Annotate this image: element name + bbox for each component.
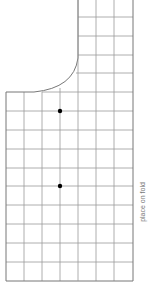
notch-dot-1 [58, 109, 62, 113]
grid-lines [6, 0, 133, 281]
notch-dot-2 [58, 184, 62, 188]
pattern-piece [0, 0, 148, 284]
fold-label: place on fold [139, 182, 146, 222]
